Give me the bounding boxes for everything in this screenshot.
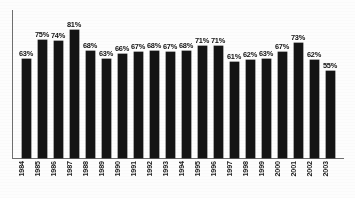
x-axis-line	[12, 158, 344, 159]
bar-slot: 75%	[34, 8, 50, 158]
x-tick-slot: 1986	[50, 160, 66, 190]
bar	[38, 40, 47, 158]
bar-slot: 74%	[50, 8, 66, 158]
x-tick-label: 1995	[194, 161, 201, 177]
bar-value-label: 62%	[243, 51, 257, 58]
bar-value-label: 66%	[115, 45, 129, 52]
bar	[102, 59, 111, 159]
x-tick-label: 1992	[146, 161, 153, 177]
bar	[86, 51, 95, 158]
bar	[262, 59, 271, 159]
bar	[310, 60, 319, 158]
x-tick-slot: 2000	[274, 160, 290, 190]
x-tick-label: 2002	[306, 161, 313, 177]
x-tick-slot: 1985	[34, 160, 50, 190]
x-tick-label: 2003	[322, 161, 329, 177]
bar-slot: 55%	[322, 8, 338, 158]
bar-value-label: 75%	[35, 31, 49, 38]
bar	[54, 41, 63, 158]
bar	[246, 60, 255, 158]
bar	[118, 54, 127, 158]
bar-value-label: 63%	[259, 50, 273, 57]
x-tick-label: 1985	[34, 161, 41, 177]
bar	[182, 51, 191, 158]
bar-value-label: 61%	[227, 53, 241, 60]
x-tick-label: 1990	[114, 161, 121, 177]
bar-value-label: 67%	[163, 43, 177, 50]
x-tick-label: 1994	[178, 161, 185, 177]
x-tick-label: 1988	[82, 161, 89, 177]
x-tick-slot: 1991	[130, 160, 146, 190]
x-tick-label: 2000	[274, 161, 281, 177]
bar-value-label: 63%	[19, 50, 33, 57]
x-tick-label: 1997	[226, 161, 233, 177]
bar	[326, 71, 335, 158]
x-tick-slot: 1988	[82, 160, 98, 190]
bar	[214, 46, 223, 158]
x-tick-slot: 2002	[306, 160, 322, 190]
bar	[150, 51, 159, 158]
bar-slot: 68%	[146, 8, 162, 158]
x-tick-label: 1989	[98, 161, 105, 177]
x-tick-label: 2001	[290, 161, 297, 177]
bar-slot: 67%	[274, 8, 290, 158]
x-tick-slot: 1994	[178, 160, 194, 190]
bar-slot: 66%	[114, 8, 130, 158]
bar-value-label: 81%	[67, 21, 81, 28]
bar-value-label: 73%	[291, 34, 305, 41]
x-tick-label: 1998	[242, 161, 249, 177]
plot-area: 63%75%74%81%68%63%66%67%68%67%68%71%71%6…	[12, 8, 344, 158]
bar-slot: 68%	[178, 8, 194, 158]
bar-slot: 63%	[98, 8, 114, 158]
bar	[134, 52, 143, 158]
bar-value-label: 67%	[275, 43, 289, 50]
bar-slot: 67%	[162, 8, 178, 158]
x-axis-tick-labels: 1984198519861987198819891990199119921993…	[12, 160, 344, 190]
x-tick-label: 1996	[210, 161, 217, 177]
x-tick-slot: 1999	[258, 160, 274, 190]
bar-slot: 81%	[66, 8, 82, 158]
bar-value-label: 68%	[179, 42, 193, 49]
bar	[294, 43, 303, 158]
bar-slot: 63%	[18, 8, 34, 158]
x-tick-slot: 1987	[66, 160, 82, 190]
bar-slot: 62%	[306, 8, 322, 158]
x-tick-slot: 1998	[242, 160, 258, 190]
x-tick-label: 1999	[258, 161, 265, 177]
x-tick-slot: 1992	[146, 160, 162, 190]
x-tick-slot: 1995	[194, 160, 210, 190]
x-tick-slot: 1989	[98, 160, 114, 190]
bar	[22, 59, 31, 159]
x-tick-label: 1991	[130, 161, 137, 177]
bar-value-label: 55%	[323, 62, 337, 69]
bar-slot: 71%	[194, 8, 210, 158]
x-tick-label: 1993	[162, 161, 169, 177]
x-tick-label: 1984	[18, 161, 25, 177]
x-tick-slot: 1993	[162, 160, 178, 190]
bar-value-label: 62%	[307, 51, 321, 58]
bar	[230, 62, 239, 158]
x-tick-label: 1987	[66, 161, 73, 177]
bar-value-label: 67%	[131, 43, 145, 50]
bar-value-label: 71%	[211, 37, 225, 44]
bar	[198, 46, 207, 158]
bar-slot: 61%	[226, 8, 242, 158]
x-tick-slot: 2001	[290, 160, 306, 190]
x-tick-slot: 2003	[322, 160, 338, 190]
bar-value-label: 68%	[147, 42, 161, 49]
bar-value-label: 63%	[99, 50, 113, 57]
bar-series: 63%75%74%81%68%63%66%67%68%67%68%71%71%6…	[12, 8, 344, 158]
bar	[166, 52, 175, 158]
x-tick-label: 1986	[50, 161, 57, 177]
bar-slot: 63%	[258, 8, 274, 158]
bar-value-label: 74%	[51, 32, 65, 39]
bar-slot: 71%	[210, 8, 226, 158]
bar-value-label: 68%	[83, 42, 97, 49]
bar-slot: 73%	[290, 8, 306, 158]
bar-slot: 67%	[130, 8, 146, 158]
x-tick-slot: 1996	[210, 160, 226, 190]
bar-value-label: 71%	[195, 37, 209, 44]
bar-slot: 68%	[82, 8, 98, 158]
x-tick-slot: 1997	[226, 160, 242, 190]
bar-slot: 62%	[242, 8, 258, 158]
